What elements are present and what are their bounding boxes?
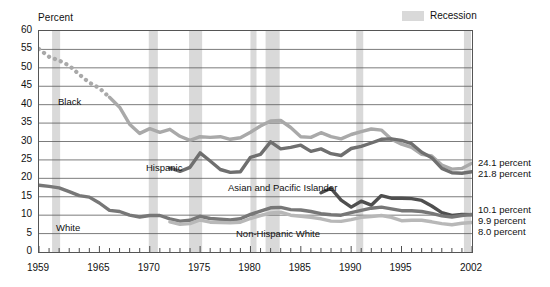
y-tick-label: 55	[6, 42, 32, 53]
series-line-hispanic	[170, 139, 472, 173]
y-tick-label: 5	[6, 227, 32, 238]
x-tick-label: 1985	[280, 262, 320, 273]
x-tick-label: 1970	[129, 262, 169, 273]
series-line-black	[39, 49, 110, 97]
x-tick-label: 1995	[381, 262, 421, 273]
series-label-nhwhite: Non-Hispanic White	[236, 228, 320, 239]
y-tick-label: 0	[6, 245, 32, 256]
y-tick-label: 50	[6, 61, 32, 72]
x-tick-label: 1980	[229, 262, 269, 273]
y-tick-label: 60	[6, 24, 32, 35]
series-line-black	[110, 97, 473, 169]
x-tick-label: 1965	[78, 262, 118, 273]
series-label-asian: Asian and Pacific Islander	[228, 182, 337, 193]
y-tick-label: 10	[6, 208, 32, 219]
y-tick-label: 25	[6, 153, 32, 164]
x-tick-label: 1990	[330, 262, 370, 273]
recession-legend-label: Recession	[430, 10, 477, 21]
end-value-label: 21.8 percent	[478, 168, 531, 179]
y-tick-label: 15	[6, 190, 32, 201]
x-tick-label: 1975	[179, 262, 219, 273]
y-axis-title: Percent	[38, 12, 73, 23]
x-tick-label: 1959	[18, 262, 58, 273]
y-tick-label: 45	[6, 79, 32, 90]
x-tick-label: 2002	[451, 262, 491, 273]
series-label-black: Black	[58, 96, 81, 107]
y-tick-label: 30	[6, 135, 32, 146]
plot-area	[38, 30, 473, 253]
chart-page: Percent Recession 0510152025303540455055…	[0, 0, 550, 287]
y-tick-label: 40	[6, 98, 32, 109]
series-label-white: White	[56, 222, 80, 233]
chart-canvas	[39, 31, 472, 252]
y-tick-label: 20	[6, 171, 32, 182]
end-value-label: 8.0 percent	[478, 226, 526, 237]
series-label-hispanic: Hispanic	[146, 162, 182, 173]
end-value-label: 24.1 percent	[478, 157, 531, 168]
recession-legend-swatch	[402, 11, 424, 21]
end-value-label: 9.9 percent	[478, 215, 526, 226]
end-value-label: 10.1 percent	[478, 204, 531, 215]
y-tick-label: 35	[6, 116, 32, 127]
legend: Recession	[402, 10, 477, 21]
